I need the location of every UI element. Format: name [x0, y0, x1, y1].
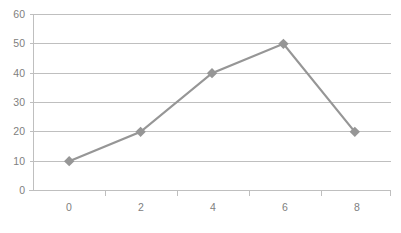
y-axis-label-40: 40: [13, 67, 25, 79]
x-axis-labels: 0 2 4 6 8: [66, 201, 360, 213]
y-axis-label-0: 0: [19, 184, 25, 196]
line-chart: 60 50 40 30 20 10 0 0 2 4 6 8: [0, 0, 401, 233]
x-axis-label-4: 4: [210, 201, 216, 213]
y-axis-ticks: [30, 15, 34, 191]
x-axis-ticks: [106, 191, 391, 196]
x-axis-label-2: 2: [138, 201, 144, 213]
y-axis-labels: 60 50 40 30 20 10 0: [13, 8, 25, 196]
y-axis-label-60: 60: [13, 8, 25, 20]
gridlines: [34, 15, 391, 162]
y-axis-label-20: 20: [13, 125, 25, 137]
y-axis-label-50: 50: [13, 37, 25, 49]
x-axis-label-8: 8: [354, 201, 360, 213]
chart-plot-area: 60 50 40 30 20 10 0 0 2 4 6 8: [0, 0, 401, 233]
x-axis-label-0: 0: [66, 201, 72, 213]
y-axis-label-30: 30: [13, 96, 25, 108]
y-axis-label-10: 10: [13, 155, 25, 167]
data-point-marker: [64, 156, 74, 166]
x-axis-label-6: 6: [282, 201, 288, 213]
